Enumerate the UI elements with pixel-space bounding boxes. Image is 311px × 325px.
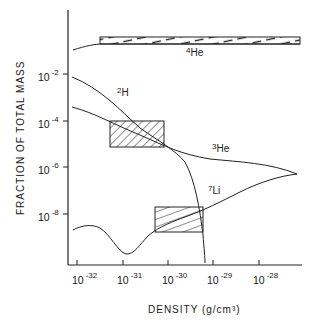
h2-curve	[72, 77, 205, 263]
x-axis-title: DENSITY (g/cm³)	[148, 304, 241, 315]
x-tick-labels: 10-32 10-31 10-30 10-29 10-28	[72, 271, 279, 286]
svg-text:10-32: 10-32	[72, 271, 98, 286]
svg-text:10-6: 10-6	[38, 161, 59, 176]
svg-text:10-28: 10-28	[253, 271, 279, 286]
he3-curve	[72, 107, 297, 174]
svg-text:10-30: 10-30	[162, 271, 188, 286]
y-tick-labels: 10-2 10-4 10-6 10-8	[38, 68, 59, 223]
svg-text:10-4: 10-4	[38, 115, 59, 130]
svg-text:4He: 4He	[186, 46, 204, 58]
svg-text:2H: 2H	[117, 86, 129, 98]
svg-text:3He: 3He	[212, 142, 230, 154]
he4-observed-box	[100, 37, 300, 44]
svg-text:10-29: 10-29	[207, 271, 233, 286]
bbn-abundance-chart: 10-2 10-4 10-6 10-8 10-32 10-31 10-30 10…	[0, 0, 311, 325]
svg-text:7Li: 7Li	[208, 184, 220, 196]
svg-text:10-8: 10-8	[38, 208, 59, 223]
y-axis-title: FRACTION OF TOTAL MASS	[15, 61, 26, 215]
observed-ranges	[100, 37, 300, 232]
svg-text:10-2: 10-2	[38, 68, 59, 83]
svg-text:10-31: 10-31	[117, 271, 143, 286]
